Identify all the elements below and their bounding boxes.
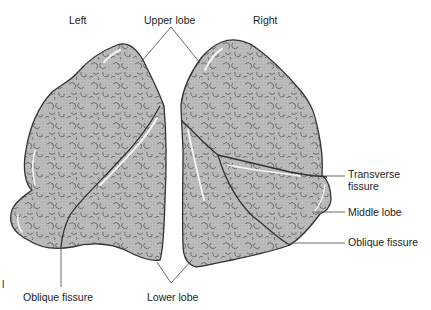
- upper-lobe-leader: [141, 27, 200, 63]
- right-label: Right: [253, 14, 278, 26]
- margin-mark: l: [2, 278, 4, 290]
- upper-lobe-label: Upper lobe: [144, 14, 195, 26]
- transverse-fissure-label-line1: Transverse: [348, 168, 400, 180]
- lower-lobe-label: Lower lobe: [147, 291, 198, 303]
- transverse-fissure-label-line2: fissure: [348, 180, 379, 192]
- transverse-fissure-label: Transverse fissure: [348, 168, 400, 192]
- right-lung: [181, 40, 331, 267]
- oblique-fissure-right-label: Oblique fissure: [348, 236, 418, 248]
- middle-lobe-label: Middle lobe: [348, 206, 402, 218]
- lower-lobe-leader: [157, 260, 192, 283]
- left-label: Left: [69, 14, 87, 26]
- lungs-diagram: [0, 0, 431, 310]
- oblique-fissure-left-label: Oblique fissure: [23, 291, 93, 303]
- left-lung: [11, 44, 167, 261]
